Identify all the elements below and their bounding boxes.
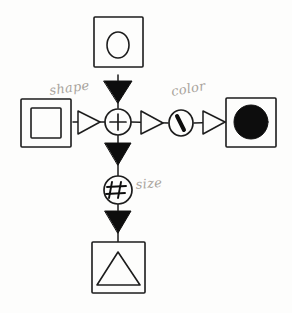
box-outline (94, 17, 143, 67)
arrowhead-right-outer-arm (203, 111, 225, 134)
diagram-canvas: shape color size (0, 0, 292, 313)
node-circle-slash[interactable] (169, 110, 193, 136)
node-box-filled-circle[interactable] (226, 98, 276, 147)
annotation-shape: shape (48, 78, 90, 98)
arrowheads-hollow (78, 111, 225, 134)
operator-circle (104, 176, 132, 204)
circle-filled-icon (234, 105, 268, 139)
node-box-square[interactable] (21, 99, 71, 147)
connector-lines (73, 75, 228, 243)
node-circle-plus[interactable] (105, 109, 131, 135)
arrowhead-down-top (104, 81, 132, 103)
arrowhead-right-left-arm (78, 111, 100, 134)
node-circle-hash[interactable] (104, 176, 132, 204)
box-outline (21, 99, 71, 147)
node-box-triangle[interactable] (92, 242, 145, 293)
annotation-color: color (170, 78, 207, 99)
arrowhead-right-center-arm (141, 111, 163, 134)
arrowhead-down-middle (105, 143, 131, 165)
diagram-svg: shape color size (0, 0, 292, 313)
node-box-circle[interactable] (94, 17, 143, 67)
arrowhead-down-bottom (105, 211, 131, 233)
annotation-size: size (135, 175, 163, 192)
